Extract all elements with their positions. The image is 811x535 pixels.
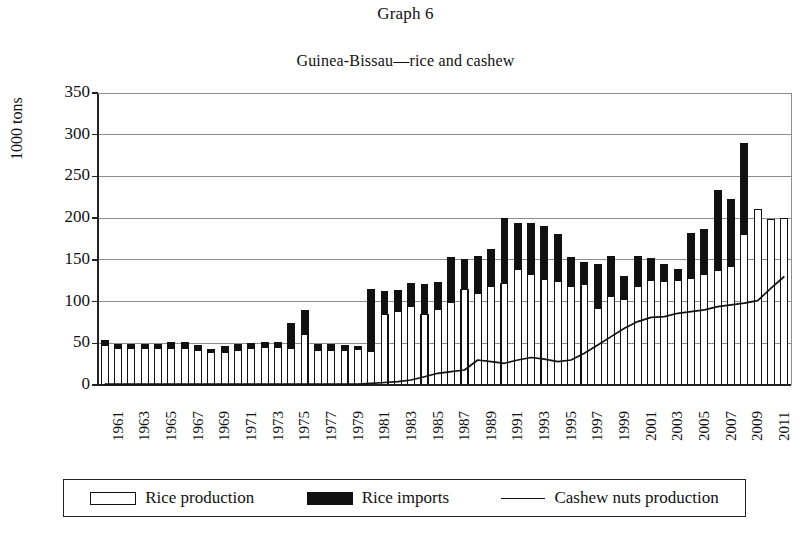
- bar-rice-production-1964: [141, 348, 148, 385]
- bar-rice-imports-2008: [728, 200, 735, 267]
- bar-rice-imports-1961: [101, 341, 108, 345]
- bar-rice-production-1993: [528, 275, 535, 385]
- bar-rice-imports-1980: [354, 347, 361, 350]
- bar-rice-imports-1990: [488, 249, 495, 287]
- bar-rice-imports-1977: [314, 345, 321, 351]
- bar-rice-production-1990: [488, 287, 495, 385]
- bar-rice-production-1983: [394, 312, 401, 385]
- bar-rice-production-1977: [314, 351, 321, 385]
- bar-rice-production-2003: [661, 282, 668, 385]
- bar-rice-production-1999: [608, 297, 615, 385]
- legend-item-cashew-nuts-production: Cashew nuts production: [501, 488, 718, 508]
- line-swatch-icon: [501, 498, 545, 499]
- bar-rice-imports-1997: [581, 262, 588, 285]
- bar-rice-production-1976: [301, 334, 308, 385]
- bar-rice-imports-1998: [594, 265, 601, 308]
- bar-rice-production-1996: [568, 287, 575, 385]
- bar-rice-imports-1962: [115, 344, 122, 348]
- bar-rice-production-2000: [621, 299, 628, 385]
- bar-rice-imports-1967: [181, 342, 188, 348]
- bar-rice-production-1961: [101, 345, 108, 385]
- bar-rice-production-1979: [341, 350, 348, 385]
- legend-item-rice-imports: Rice imports: [307, 488, 449, 508]
- bar-rice-production-1966: [168, 348, 175, 385]
- bar-rice-imports-2007: [714, 191, 721, 271]
- bar-rice-imports-1996: [568, 257, 575, 286]
- bar-rice-imports-1972: [248, 343, 255, 348]
- bar-rice-production-1975: [288, 348, 295, 385]
- bar-rice-imports-1975: [288, 323, 295, 348]
- bar-rice-production-1991: [501, 283, 508, 385]
- bar-rice-imports-1963: [128, 344, 135, 348]
- bar-rice-production-1971: [234, 351, 241, 385]
- bar-rice-production-2007: [714, 271, 721, 385]
- bar-rice-imports-1964: [141, 344, 148, 348]
- bar-rice-imports-2003: [661, 264, 668, 282]
- bar-rice-imports-1995: [554, 235, 561, 282]
- line-cashew-nuts-production: [105, 277, 785, 385]
- bar-rice-imports-1987: [448, 257, 455, 302]
- bar-rice-imports-1971: [234, 345, 241, 351]
- bar-rice-imports-1965: [155, 344, 162, 348]
- bar-rice-imports-2001: [634, 257, 641, 287]
- plot-area: [0, 0, 811, 535]
- bar-rice-imports-1991: [501, 218, 508, 283]
- bar-rice-production-1963: [128, 348, 135, 385]
- legend-label-cashew-nuts-production: Cashew nuts production: [554, 488, 718, 508]
- bar-rice-imports-1992: [514, 223, 521, 269]
- bar-rice-production-1972: [248, 348, 255, 385]
- legend-label-rice-imports: Rice imports: [362, 488, 449, 508]
- bar-rice-production-2002: [648, 281, 655, 385]
- bar-rice-imports-1983: [394, 291, 401, 312]
- bar-rice-production-1981: [368, 352, 375, 385]
- bar-rice-production-1984: [408, 307, 415, 385]
- bar-rice-imports-2002: [648, 258, 655, 281]
- bar-rice-imports-1966: [168, 342, 175, 348]
- bar-rice-imports-2004: [674, 270, 681, 281]
- bar-rice-imports-2006: [701, 230, 708, 274]
- bar-rice-production-1994: [541, 279, 548, 385]
- bar-rice-imports-2005: [688, 233, 695, 278]
- bar-rice-imports-1984: [408, 283, 415, 306]
- bar-rice-imports-1973: [261, 342, 268, 347]
- bar-rice-imports-1968: [194, 346, 201, 350]
- bar-rice-production-1969: [208, 352, 215, 385]
- bar-rice-imports-1986: [434, 282, 441, 310]
- bar-rice-imports-1969: [208, 349, 215, 352]
- bars-rice-production: [101, 210, 788, 385]
- bar-rice-production-2001: [634, 287, 641, 385]
- bar-rice-production-1962: [115, 348, 122, 385]
- bar-rice-imports-1989: [474, 257, 481, 294]
- bar-rice-production-1973: [261, 347, 268, 385]
- bar-rice-imports-2009: [741, 143, 748, 235]
- bar-rice-imports-1978: [328, 345, 335, 350]
- bar-rice-production-2005: [688, 278, 695, 385]
- bar-rice-imports-1985: [421, 285, 428, 315]
- bar-rice-production-1965: [155, 348, 162, 385]
- bar-rice-production-1970: [221, 352, 228, 385]
- bar-rice-imports-1976: [301, 311, 308, 334]
- bar-rice-imports-1974: [274, 342, 281, 347]
- bar-rice-production-2004: [674, 281, 681, 385]
- bar-rice-production-2011: [768, 220, 775, 385]
- bar-rice-production-2006: [701, 274, 708, 385]
- legend-item-rice-production: Rice production: [90, 488, 254, 508]
- bar-rice-production-1997: [581, 285, 588, 385]
- bar-rice-production-1980: [354, 349, 361, 385]
- bar-rice-imports-1970: [221, 347, 228, 353]
- bar-rice-production-1967: [181, 348, 188, 385]
- chart-legend: Rice production Rice imports Cashew nuts…: [63, 479, 746, 517]
- bar-rice-imports-1994: [541, 226, 548, 279]
- y-axis-tick-marks: [92, 93, 98, 385]
- bar-rice-imports-1988: [461, 259, 468, 289]
- bar-rice-production-1982: [381, 314, 388, 385]
- bar-rice-production-1985: [421, 315, 428, 385]
- bar-rice-production-1968: [194, 350, 201, 385]
- bar-rice-imports-1981: [368, 289, 375, 352]
- bar-rice-imports-1979: [341, 346, 348, 350]
- solid-bar-swatch-icon: [307, 492, 353, 505]
- bar-rice-production-2008: [728, 267, 735, 385]
- bar-rice-production-1974: [274, 347, 281, 385]
- bar-rice-imports-1999: [608, 257, 615, 297]
- chart-figure: Graph 6 Guinea-Bissau—rice and cashew 10…: [0, 0, 811, 535]
